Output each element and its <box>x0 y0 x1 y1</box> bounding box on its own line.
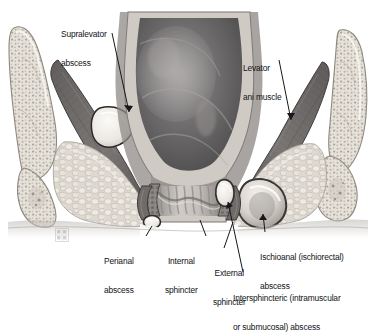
label-line-1: Internal <box>165 257 198 267</box>
label-line-1: Intersphincteric (intramuscular <box>233 294 341 304</box>
label-line-1: Levator <box>243 64 282 74</box>
label-line-2: or submucosal) abscess <box>233 323 341 333</box>
label-line-1: Ischioanal (ischiorectal) <box>260 253 344 263</box>
label-line-2: abscess <box>61 59 107 69</box>
intersphincteric-abscess <box>216 180 234 207</box>
label-line-1: Supralevator <box>61 30 107 40</box>
label-supralevator-abscess: Supralevator abscess <box>61 11 107 88</box>
label-line-1: Perianal <box>104 257 134 267</box>
label-line-2: abscess <box>104 286 134 296</box>
label-intersphincteric-abscess: Intersphincteric (intramuscular or submu… <box>233 275 341 336</box>
label-levator-ani-muscle: Levator ani muscle <box>243 45 282 122</box>
label-line-2: sphincter <box>165 286 198 296</box>
label-internal-sphincter: Internal sphincter <box>165 238 198 315</box>
label-line-2: ani muscle <box>243 93 282 103</box>
ischioanal-abscess <box>238 179 287 228</box>
grid-watermark-icon <box>55 228 69 242</box>
label-perianal-abscess: Perianal abscess <box>104 238 134 315</box>
